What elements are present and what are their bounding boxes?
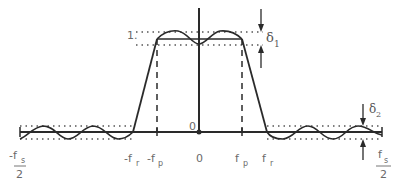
- fp-label: f: [235, 152, 240, 165]
- neg-fp-label: -f: [147, 152, 156, 165]
- origin-small-label: 0: [189, 120, 196, 133]
- one-label: 1.: [127, 29, 138, 42]
- neg-fr-label: -f: [124, 152, 133, 165]
- zero-label: 0: [196, 152, 203, 165]
- fs-denominator: 2: [380, 168, 387, 181]
- fs-sub: s: [384, 156, 388, 165]
- fr-sub: r: [270, 159, 274, 168]
- origin-dot: [197, 130, 202, 135]
- neg-fs-label: -f: [9, 149, 18, 162]
- neg-fr-sub: r: [136, 159, 140, 168]
- fp-sub: p: [243, 159, 248, 168]
- fr-label: f: [262, 152, 267, 165]
- delta2-top-arrowhead: [360, 118, 366, 126]
- delta1-label: δ: [266, 30, 274, 45]
- delta2-sub: 2: [376, 110, 381, 119]
- neg-fs-sub: s: [21, 156, 25, 165]
- fs-label: f: [378, 148, 383, 161]
- delta1-top-arrowhead: [258, 24, 264, 32]
- neg-fp-sub: p: [158, 159, 163, 168]
- delta1-sub: 1: [274, 39, 280, 49]
- filter-tolerance-diagram: 1. 0 -f s 2 -f r -f p 0 f p f r f s 2 δ …: [0, 0, 397, 182]
- delta2-bottom-arrowhead: [360, 139, 366, 147]
- neg-fs-denominator: 2: [16, 168, 23, 181]
- delta1-bottom-arrowhead: [258, 45, 264, 53]
- left-transition-edge: [133, 39, 157, 132]
